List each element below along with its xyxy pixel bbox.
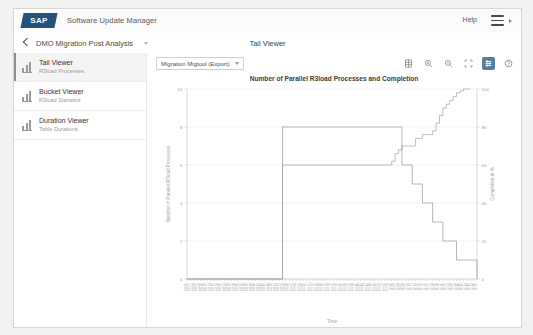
sidebar-item-sublabel: R3load Statistics [39, 97, 84, 104]
sidebar-item-duration-viewer[interactable]: Duration Viewer Table Durations [14, 111, 146, 140]
shell-header: SAP Software Update Manager Help [14, 9, 521, 34]
sidebar-item-tail-viewer[interactable]: Tail Viewer R3load Processes [14, 53, 146, 82]
zoom-out-icon[interactable] [442, 57, 455, 70]
table-view-icon[interactable] [402, 57, 415, 70]
bar-chart-icon [22, 62, 33, 73]
sidebar-item-label: Duration Viewer [39, 117, 89, 126]
svg-text:20: 20 [482, 239, 487, 244]
zoom-in-icon[interactable] [422, 57, 435, 70]
svg-text:100: 100 [482, 87, 490, 92]
svg-text:8: 8 [180, 125, 183, 130]
dataset-select-value: Migration Migtool (Export) [161, 61, 230, 67]
svg-text:0: 0 [180, 277, 183, 282]
svg-text:10: 10 [178, 87, 183, 92]
sidebar: Tail Viewer R3load Processes Bucket View… [14, 53, 147, 327]
sap-logo-text: SAP [22, 13, 56, 28]
svg-text:6: 6 [180, 163, 183, 168]
svg-text:10:50: 10:50 [474, 283, 478, 291]
application-window: SAP Software Update Manager Help DMO Mig… [13, 8, 522, 328]
chart-plot[interactable]: 0246810020406080100Number of Parallel R3… [147, 83, 521, 327]
svg-text:0: 0 [482, 277, 485, 282]
bar-chart-icon [22, 120, 33, 131]
dataset-select[interactable]: Migration Migtool (Export) [156, 57, 244, 70]
svg-text:80: 80 [482, 125, 487, 130]
sidebar-item-sublabel: R3load Processes [39, 68, 84, 75]
sidebar-item-sublabel: Table Durations [39, 126, 89, 133]
personalize-icon[interactable] [482, 57, 495, 70]
help-circle-icon[interactable] [502, 57, 515, 70]
chart-container: Number of Parallel R3load Processes and … [147, 75, 521, 327]
svg-text:4: 4 [180, 201, 183, 206]
hamburger-menu-icon[interactable] [491, 15, 504, 26]
chart-toolbar: Migration Migtool (Export) [147, 53, 521, 75]
svg-text:Number of Parallel R3load Proc: Number of Parallel R3load Processes [166, 145, 171, 222]
help-link[interactable]: Help [463, 16, 477, 23]
sidebar-item-label: Bucket Viewer [39, 88, 84, 97]
screenshot-frame: SAP Software Update Manager Help DMO Mig… [0, 0, 533, 335]
page-title: Tail Viewer [14, 39, 521, 48]
sidebar-item-label: Tail Viewer [39, 59, 84, 68]
sub-header: DMO Migration Post Analysis Tail Viewer [14, 33, 521, 54]
chevron-right-icon [509, 19, 512, 23]
sap-logo: SAP [20, 13, 57, 28]
sidebar-item-bucket-viewer[interactable]: Bucket Viewer R3load Statistics [14, 82, 146, 111]
svg-text:2: 2 [180, 239, 183, 244]
svg-text:Completion in %: Completion in % [490, 167, 495, 200]
fullscreen-icon[interactable] [462, 57, 475, 70]
svg-text:60: 60 [482, 163, 487, 168]
chevron-down-icon [235, 62, 239, 65]
app-title: Software Update Manager [67, 16, 157, 25]
bar-chart-icon [22, 91, 33, 102]
svg-text:Time: Time [327, 319, 337, 324]
chart-tool-buttons [402, 56, 515, 71]
content-area: Migration Migtool (Export) [147, 53, 521, 327]
chart-title: Number of Parallel R3load Processes and … [147, 75, 521, 82]
svg-text:40: 40 [482, 201, 487, 206]
